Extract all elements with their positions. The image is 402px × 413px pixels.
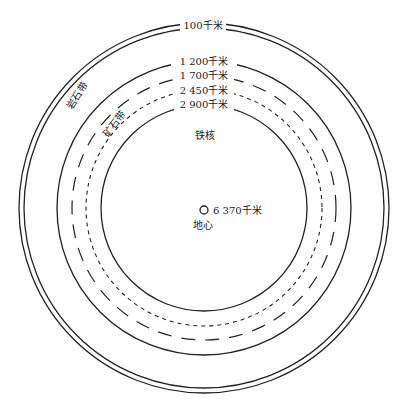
label-1200km: 1 200千米 [180, 55, 229, 67]
label-2450km: 2 450千米 [180, 84, 229, 96]
label-earth-center: 地心 [193, 219, 213, 231]
label-iron-core: 铁核 [195, 129, 215, 141]
label-center-depth: 6 370千米 [213, 204, 262, 216]
earth-layers-diagram: 100千米 1 200千米 1 700千米 2 450千米 2 900千米 岩石… [0, 0, 402, 413]
label-ore-zone: 矿石带 [100, 108, 128, 139]
label-100km: 100千米 [183, 19, 222, 31]
label-2900km: 2 900千米 [180, 98, 229, 110]
ring-1700km [72, 76, 336, 340]
label-1700km: 1 700千米 [180, 69, 229, 81]
ring-2450km [86, 90, 322, 326]
center-point-icon [200, 206, 208, 214]
